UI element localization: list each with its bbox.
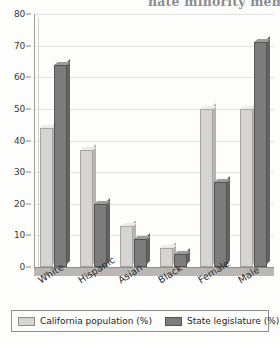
chart-legend: California population (%)State legislatu…	[11, 310, 269, 332]
y-tick-label: 40	[14, 136, 25, 146]
bar-face	[254, 42, 267, 267]
y-tick-mark	[26, 140, 31, 141]
bar	[120, 226, 133, 267]
bar-group	[234, 14, 274, 267]
y-tick-mark	[26, 14, 31, 15]
y-tick-label: 80	[14, 9, 25, 19]
y-tick-label: 70	[14, 41, 25, 51]
y-tick-label: 30	[14, 167, 25, 177]
y-tick-mark	[26, 77, 31, 78]
bar	[80, 150, 93, 267]
y-tick-mark	[26, 45, 31, 46]
y-tick-mark	[26, 203, 31, 204]
bar-face	[160, 248, 173, 267]
y-axis: 80706050403020100	[0, 14, 34, 276]
y-tick-mark	[26, 267, 31, 268]
legend-swatch	[165, 317, 182, 326]
bar-side	[67, 59, 70, 264]
bar	[40, 128, 53, 267]
legend-label: California population (%)	[40, 316, 152, 326]
bar-face	[214, 182, 227, 267]
y-tick-label: 60	[14, 72, 25, 82]
bar	[54, 65, 67, 267]
bar	[160, 248, 173, 267]
chart-plot-area: 80706050403020100 WhiteHispanicAsianBlac…	[0, 14, 280, 304]
bar-group	[194, 14, 234, 267]
bar	[214, 182, 227, 267]
y-tick-label: 20	[14, 199, 25, 209]
bar-face	[54, 65, 67, 267]
legend-item: California population (%)	[18, 316, 152, 326]
bar-series-container	[34, 14, 274, 276]
y-tick-mark	[26, 172, 31, 173]
bar-face	[240, 109, 253, 267]
bar-face	[200, 109, 213, 267]
y-tick-mark	[26, 235, 31, 236]
cut-off-header-text: nate minority membe	[148, 0, 280, 9]
y-tick-label: 50	[14, 104, 25, 114]
legend-label: State legislature (%)	[187, 316, 279, 326]
bar	[240, 109, 253, 267]
bar-side	[267, 36, 270, 264]
bar-group	[34, 14, 74, 267]
bar-face	[40, 128, 53, 267]
bar-group	[74, 14, 114, 267]
bar	[200, 109, 213, 267]
y-tick-label: 0	[19, 262, 25, 272]
bar-group	[114, 14, 154, 267]
y-tick-label: 10	[14, 230, 25, 240]
bar-side	[227, 176, 230, 264]
bar	[254, 42, 267, 267]
legend-item: State legislature (%)	[165, 316, 279, 326]
bar-face	[120, 226, 133, 267]
legend-swatch	[18, 317, 35, 326]
bar-group	[154, 14, 194, 267]
y-tick-mark	[26, 108, 31, 109]
cut-off-header: nate minority membe	[0, 0, 280, 13]
bar-face	[80, 150, 93, 267]
